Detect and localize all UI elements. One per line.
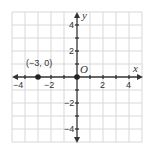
x-axis-label: x [132,62,138,74]
point-origin [74,74,80,80]
origin-label: O [80,63,88,75]
point-neg3-0 [35,74,41,80]
x-tick-label: −4 [13,80,23,90]
y-tick-label: −4 [64,124,74,134]
y-tick-label: 2 [69,46,74,56]
y-tick-label: −2 [64,98,74,108]
y-axis-label: y [81,9,87,21]
x-tick-label: −2 [44,80,54,90]
x-tick-label: 2 [100,80,105,90]
y-tick-label: 4 [69,20,74,30]
coordinate-plane: y x O −4 −2 2 4 4 2 −2 −4 (−3, 0) [0,0,148,151]
point-label: (−3, 0) [26,58,52,68]
x-tick-label: 4 [126,80,131,90]
